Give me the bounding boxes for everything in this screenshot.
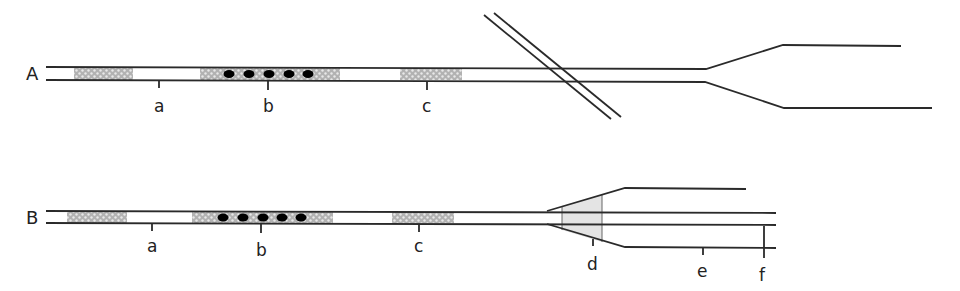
track-b-lower-rail [46, 223, 776, 225]
shaded-block [67, 212, 127, 223]
marker-d-label: d [587, 254, 598, 274]
marker-b-label: b [256, 240, 267, 260]
shaded-block [392, 212, 454, 223]
panel-a: A a b c [26, 13, 932, 119]
track-a-upper-rail [46, 45, 901, 69]
crossing-rail [494, 13, 621, 117]
crossing-rail [484, 15, 611, 119]
marker-f-label: f [759, 265, 766, 285]
marker-b-label: b [263, 96, 274, 116]
marker-a-label: a [154, 96, 164, 116]
panel-b-label: B [26, 207, 38, 228]
shaded-block [400, 68, 462, 80]
track-a-lower-rail [46, 80, 932, 108]
marker-c-label: c [422, 96, 431, 116]
track-diagram: A a b c B [0, 0, 960, 291]
panel-a-label: A [26, 63, 39, 84]
marker-e-label: e [697, 261, 707, 281]
track-b-upper-rail [46, 211, 776, 213]
shaded-block [74, 68, 133, 80]
marker-a-label: a [147, 236, 157, 256]
marker-c-label: c [414, 236, 423, 256]
panel-b: B a b c d e f [26, 188, 776, 285]
